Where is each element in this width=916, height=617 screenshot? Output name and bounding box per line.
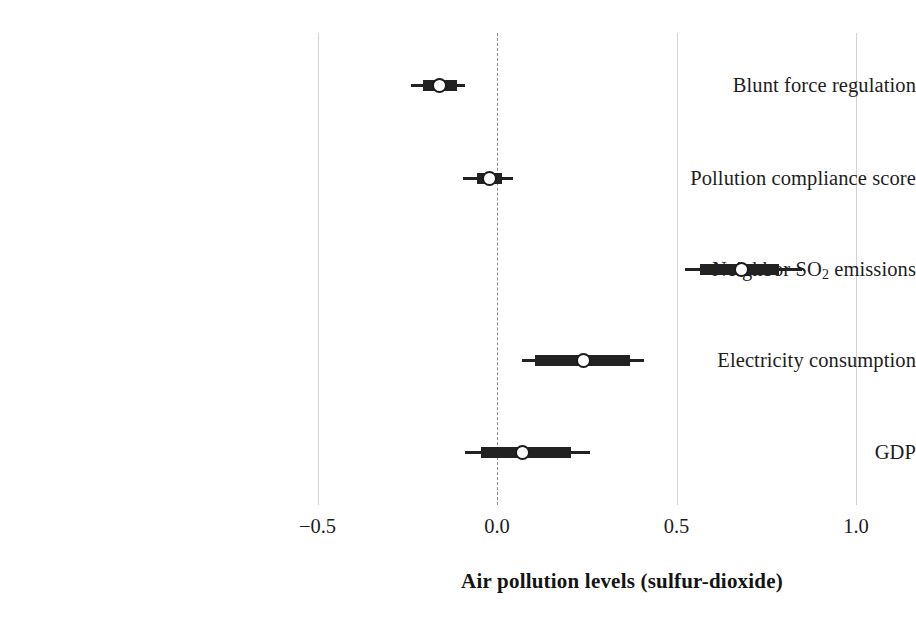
estimate-row [0,163,916,193]
point-estimate-marker [432,78,447,93]
point-estimate-marker [734,262,749,277]
coefficient-plot-figure: Blunt force regulationPollution complian… [0,0,916,617]
estimate-row [0,345,916,375]
x-tick-label: 0.5 [664,516,690,537]
estimate-row [0,437,916,467]
point-estimate-marker [482,171,497,186]
estimate-row [0,70,916,100]
x-axis-title: Air pollution levels (sulfur-dioxide) [461,569,783,594]
point-estimate-marker [576,353,591,368]
x-tick-label: 1.0 [843,516,869,537]
point-estimate-marker [515,445,530,460]
estimate-row [0,254,916,284]
x-tick-label: 0.0 [484,516,510,537]
x-tick-label: −0.5 [299,516,336,537]
